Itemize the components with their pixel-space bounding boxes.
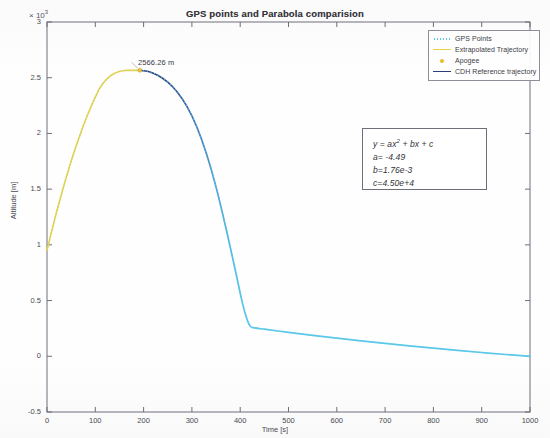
y-tick-label: 0.5 (5, 296, 41, 305)
series-cdh-reference-trajectory (140, 70, 530, 356)
y-tick-label: -0.5 (5, 407, 41, 416)
series-extrapolated-trajectory (47, 70, 139, 250)
y-tick-label: 0 (5, 351, 41, 360)
equation-annotation-box: y = ax2 + bx + c a= -4.49 b=1.76e-3 c=4.… (362, 128, 487, 190)
equation-formula-prefix: y = ax (373, 139, 397, 149)
apogee-leader-line (132, 62, 138, 68)
legend-label-apogee: Apogee (455, 57, 479, 64)
x-tick-label: 600 (317, 416, 357, 425)
legend-item-extrapolated-trajectory[interactable]: Extrapolated Trajectory (432, 44, 536, 55)
x-tick-label: 800 (413, 416, 453, 425)
y-tick-label: 2 (5, 128, 41, 137)
x-tick-label: 100 (75, 416, 115, 425)
x-tick-label: 0 (27, 416, 67, 425)
x-tick-label: 1000 (510, 416, 550, 425)
y-tick-label: 2.5 (5, 73, 41, 82)
legend-key-gps-points (432, 34, 452, 44)
legend-key-extrapolated-trajectory (432, 45, 452, 55)
legend-label-gps-points: GPS Points (455, 35, 492, 42)
apogee-marker (138, 68, 142, 72)
legend-item-gps-points[interactable]: GPS Points (432, 33, 536, 44)
chart-figure: GPS points and Parabola comparision × 10… (0, 0, 550, 438)
legend-item-apogee[interactable]: Apogee (432, 55, 536, 66)
x-tick-label: 900 (462, 416, 502, 425)
equation-coefficient-c: c=4.50e+4 (373, 177, 486, 190)
y-tick-label: 1 (5, 240, 41, 249)
x-tick-label: 500 (269, 416, 309, 425)
chart-legend: GPS Points Extrapolated Trajectory Apoge… (428, 30, 540, 81)
legend-label-cdh-reference-trajectory: CDH Reference trajectory (455, 68, 536, 75)
y-tick-label: 1.5 (5, 184, 41, 193)
x-tick-label: 700 (365, 416, 405, 425)
legend-label-extrapolated-trajectory: Extrapolated Trajectory (455, 46, 528, 53)
equation-coefficient-b: b=1.76e-3 (373, 164, 486, 177)
series-gps-points (139, 70, 531, 357)
equation-coefficient-a: a= -4.49 (373, 151, 486, 164)
legend-key-apogee (432, 56, 452, 66)
legend-item-cdh-reference-trajectory[interactable]: CDH Reference trajectory (432, 66, 536, 77)
annotation-layer (132, 62, 138, 68)
legend-key-cdh-reference-trajectory (432, 67, 452, 77)
x-tick-label: 300 (172, 416, 212, 425)
equation-formula-suffix: + bx + c (400, 139, 434, 149)
series-gps-points-ascending (47, 70, 139, 250)
apogee-annotation-label: 2566.26 m (138, 58, 174, 67)
y-tick-label: 3 (5, 17, 41, 26)
x-tick-label: 400 (220, 416, 260, 425)
equation-formula: y = ax2 + bx + c (373, 135, 486, 151)
x-tick-label: 200 (124, 416, 164, 425)
data-series-layer (47, 68, 531, 357)
